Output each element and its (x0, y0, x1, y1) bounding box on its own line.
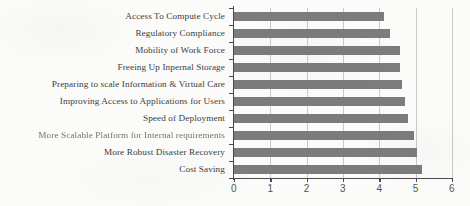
bar-row (234, 93, 452, 110)
y-axis-tick (229, 59, 234, 60)
bar (234, 148, 417, 157)
y-axis-tick (229, 25, 234, 26)
gridline (452, 8, 453, 178)
bar-row (234, 127, 452, 144)
x-axis-tick (416, 178, 417, 182)
bar (234, 80, 402, 89)
x-axis-tick (379, 178, 380, 182)
category-label: More Robust Disaster Recovery (0, 144, 230, 161)
x-axis-tick-labels: 0123456 (0, 183, 470, 201)
bar (234, 97, 405, 106)
category-label: Freeing Up Inpernal Storage (0, 59, 230, 76)
x-axis-tick-label: 1 (267, 183, 273, 194)
x-axis-tick-label: 5 (413, 183, 419, 194)
category-label: Access To Compute Cycle (0, 8, 230, 25)
bar (234, 165, 422, 174)
bar-row (234, 59, 452, 76)
x-axis-tick (452, 178, 453, 182)
y-axis-tick (229, 8, 234, 9)
bar (234, 46, 400, 55)
bar-chart: Access To Compute CycleRegulatory Compli… (0, 0, 470, 206)
bar-row (234, 110, 452, 127)
category-label: Cost Saving (0, 161, 230, 178)
bar-row (234, 76, 452, 93)
y-axis-tick (229, 42, 234, 43)
bars-container (234, 8, 452, 178)
bar (234, 63, 400, 72)
bar (234, 12, 384, 21)
y-axis-tick (229, 76, 234, 77)
x-axis-tick (307, 178, 308, 182)
category-label: Mobility of Work Force (0, 42, 230, 59)
bar (234, 114, 408, 123)
category-label: Regulatory Compliance (0, 25, 230, 42)
bar (234, 29, 390, 38)
bar-row (234, 161, 452, 178)
x-axis-tick-label: 6 (449, 183, 455, 194)
x-axis-tick (270, 178, 271, 182)
bar-row (234, 144, 452, 161)
x-axis-tick (343, 178, 344, 182)
bar-row (234, 25, 452, 42)
x-axis-tick (234, 178, 235, 182)
category-label: Preparing to scale Information & Virtual… (0, 76, 230, 93)
x-axis-tick-label: 0 (231, 183, 237, 194)
category-axis-labels: Access To Compute CycleRegulatory Compli… (0, 8, 230, 178)
y-axis-tick (229, 110, 234, 111)
x-axis-tick-label: 4 (376, 183, 382, 194)
category-label: Improving Access to Applications for Use… (0, 93, 230, 110)
y-axis-tick (229, 161, 234, 162)
plot-area (234, 8, 452, 178)
category-label: More Scalable Platform for Internal requ… (0, 127, 230, 144)
y-axis-tick (229, 127, 234, 128)
bar-row (234, 42, 452, 59)
x-axis-tick-label: 2 (304, 183, 310, 194)
bar-row (234, 8, 452, 25)
category-label: Speed of Deployment (0, 110, 230, 127)
y-axis-tick (229, 93, 234, 94)
y-axis-tick (229, 144, 234, 145)
x-axis-tick-label: 3 (340, 183, 346, 194)
bar (234, 131, 414, 140)
